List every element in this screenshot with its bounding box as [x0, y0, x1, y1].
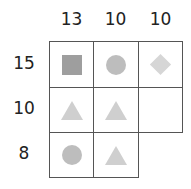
grid-cell-r1c3 — [138, 41, 183, 88]
circle-icon — [106, 55, 126, 75]
grid-cell-r3c1 — [49, 132, 94, 178]
circle-icon — [62, 145, 82, 165]
grid-cell-r2c2 — [93, 87, 139, 133]
grid-cell-r2c3-empty — [138, 87, 183, 133]
triangle-icon — [105, 101, 127, 120]
column-sum-1: 13 — [49, 9, 94, 29]
grid-cell-r1c1 — [49, 41, 94, 88]
diamond-icon — [150, 54, 171, 75]
row-sum-1: 15 — [4, 53, 44, 73]
grid-cell-r2c1 — [49, 87, 94, 133]
row-sum-3: 8 — [4, 143, 44, 163]
triangle-icon — [61, 101, 83, 120]
column-sum-3: 10 — [138, 9, 183, 29]
column-sum-2: 10 — [93, 9, 138, 29]
triangle-icon — [105, 146, 127, 165]
grid-cell-r3c2 — [93, 132, 139, 178]
row-sum-2: 10 — [4, 98, 44, 118]
square-icon — [62, 55, 82, 75]
grid-cell-r1c2 — [93, 41, 139, 88]
